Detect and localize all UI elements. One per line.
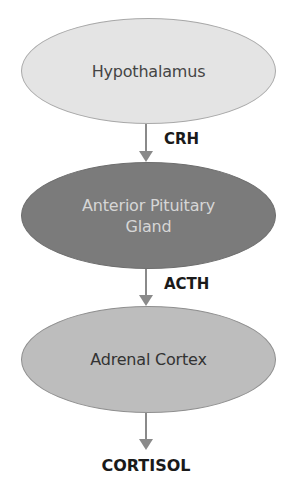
adrenal-cortex-label: Adrenal Cortex: [90, 349, 206, 370]
edge-label-crh: CRH: [164, 130, 199, 148]
edge-label-acth: ACTH: [164, 275, 209, 293]
hypothalamus-node: Hypothalamus: [21, 18, 276, 124]
anterior-pituitary-label: Anterior Pituitary Gland: [82, 195, 215, 237]
hypothalamus-label: Hypothalamus: [92, 61, 206, 82]
anterior-pituitary-node: Anterior Pituitary Gland: [21, 162, 276, 269]
arrow-cortisol-line: [145, 413, 147, 441]
arrow-crh-line: [145, 124, 147, 153]
adrenal-cortex-node: Adrenal Cortex: [21, 306, 276, 413]
arrow-acth-head-icon: [139, 295, 153, 306]
arrow-crh-head-icon: [139, 151, 153, 162]
arrow-cortisol-head-icon: [139, 439, 153, 450]
output-label-cortisol: CORTISOL: [0, 456, 292, 475]
anterior-pituitary-label-line1: Anterior Pituitary: [82, 195, 215, 216]
arrow-acth-line: [145, 269, 147, 297]
anterior-pituitary-label-line2: Gland: [82, 216, 215, 237]
